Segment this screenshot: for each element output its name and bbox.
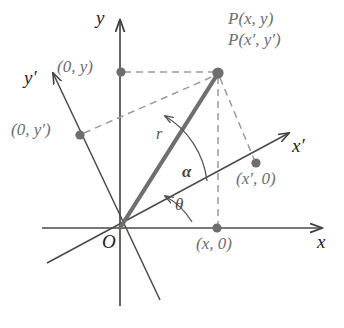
- axis-label-x-prime: x′: [292, 136, 305, 155]
- diagram-canvas: [0, 0, 344, 328]
- dot-point-y-axis-projection: [116, 67, 125, 76]
- axis-label-y-prime: y′: [24, 68, 37, 87]
- dot-point-p: [212, 67, 223, 78]
- radius-segment: [120, 75, 217, 228]
- point-x-axis-projection-label: (x, 0): [196, 235, 232, 252]
- dot-point-x-prime-projection: [251, 158, 260, 167]
- point-p-label-cartesian: P(x, y): [228, 10, 273, 27]
- axis-label-y: y: [96, 8, 104, 27]
- axis-label-x: x: [317, 232, 325, 251]
- dot-point-x-axis-projection: [212, 223, 221, 232]
- dot-point-y-prime-projection: [75, 130, 84, 139]
- angle-theta-label: θ: [175, 196, 183, 213]
- radius-label: r: [156, 126, 162, 142]
- point-x-prime-projection-label: (x′, 0): [236, 170, 276, 187]
- point-y-prime-projection-label: (0, y′): [11, 121, 51, 138]
- radius-line-op: [120, 75, 217, 228]
- rotation-of-axes-figure: x y x′ y′ O P(x, y) P(x′, y′) (x, 0) (0,…: [0, 0, 344, 328]
- point-y-axis-projection-label: (0, y): [57, 58, 93, 75]
- origin-label: O: [102, 232, 116, 251]
- dashed-p-to-y-prime-axis: [84, 76, 214, 133]
- dashed-p-to-x-prime-axis: [220, 78, 254, 159]
- point-p-label-rotated: P(x′, y′): [228, 31, 281, 48]
- angle-alpha-label: α: [182, 163, 191, 180]
